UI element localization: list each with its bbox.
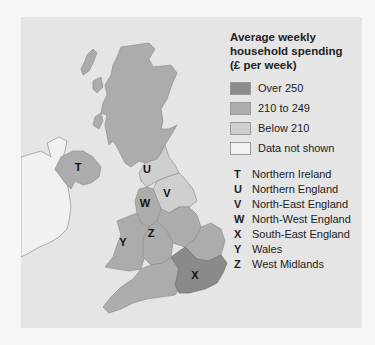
key-name: West Midlands	[252, 258, 324, 270]
region-label-u: U	[143, 163, 151, 175]
legend-title: Average weekly household spending (£ per…	[230, 30, 360, 72]
map-legend: Average weekly household spending (£ per…	[230, 30, 360, 271]
key-name: North-East England	[252, 198, 348, 210]
legend-item-over-250: Over 250	[230, 78, 360, 98]
key-letter: W	[230, 213, 252, 225]
key-row: Z West Midlands	[230, 256, 360, 271]
region-key-list: T Northern Ireland U Northern England V …	[230, 166, 360, 271]
legend-title-line-3: (£ per week)	[230, 58, 360, 72]
region-scotland-islands	[81, 49, 97, 75]
legend-swatch	[230, 102, 251, 115]
key-row: Y Wales	[230, 241, 360, 256]
legend-label: Below 210	[258, 122, 309, 134]
key-letter: U	[230, 183, 252, 195]
map-panel: T U V W X Y Z Average weekly household s…	[21, 17, 362, 328]
key-row: T Northern Ireland	[230, 166, 360, 181]
key-name: Northern Ireland	[252, 168, 332, 180]
region-republic-of-ireland	[21, 137, 71, 257]
legend-swatch	[230, 142, 251, 155]
key-row: V North-East England	[230, 196, 360, 211]
region-scotland-islands-3	[93, 113, 103, 129]
region-scotland-islands-2	[93, 77, 103, 93]
key-letter: V	[230, 198, 252, 210]
legend-title-line-2: household spending	[230, 44, 360, 58]
legend-item-210-to-249: 210 to 249	[230, 98, 360, 118]
key-row: U Northern England	[230, 181, 360, 196]
region-label-y: Y	[119, 236, 126, 248]
legend-label: Over 250	[258, 82, 303, 94]
key-name: North-West England	[252, 213, 351, 225]
key-letter: T	[230, 168, 252, 180]
key-letter: Y	[230, 243, 252, 255]
key-name: South-East England	[252, 228, 350, 240]
legend-label: Data not shown	[258, 142, 334, 154]
legend-swatch	[230, 82, 251, 95]
legend-title-line-1: Average weekly	[230, 30, 360, 44]
region-label-x: X	[191, 269, 198, 281]
region-label-v: V	[163, 187, 170, 199]
region-label-z: Z	[148, 227, 155, 239]
key-row: X South-East England	[230, 226, 360, 241]
key-letter: Z	[230, 258, 252, 270]
key-name: Northern England	[252, 183, 338, 195]
legend-swatch	[230, 122, 251, 135]
legend-item-data-not-shown: Data not shown	[230, 138, 360, 158]
key-row: W North-West England	[230, 211, 360, 226]
legend-label: 210 to 249	[258, 102, 310, 114]
region-label-t: T	[75, 161, 82, 173]
region-label-w: W	[140, 197, 150, 209]
key-name: Wales	[252, 243, 282, 255]
key-letter: X	[230, 228, 252, 240]
legend-item-below-210: Below 210	[230, 118, 360, 138]
